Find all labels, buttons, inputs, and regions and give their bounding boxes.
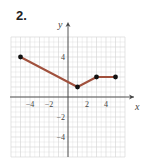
data-point: [94, 75, 99, 80]
y-axis-label: y: [57, 19, 63, 30]
y-tick-label: −4: [56, 133, 65, 142]
x-tick-label: −4: [26, 100, 35, 109]
data-point: [18, 55, 23, 60]
x-tick-label: −2: [45, 100, 54, 109]
data-point: [75, 85, 80, 90]
x-tick-label: 2: [85, 100, 89, 109]
x-tick-label: 4: [104, 100, 108, 109]
data-point: [113, 75, 118, 80]
y-tick-label: 4: [61, 53, 65, 62]
x-axis-label: x: [134, 101, 140, 112]
y-tick-label: −2: [56, 113, 65, 122]
graph: xy −4−2244−2−4: [0, 0, 150, 159]
axes: xy: [10, 19, 140, 157]
